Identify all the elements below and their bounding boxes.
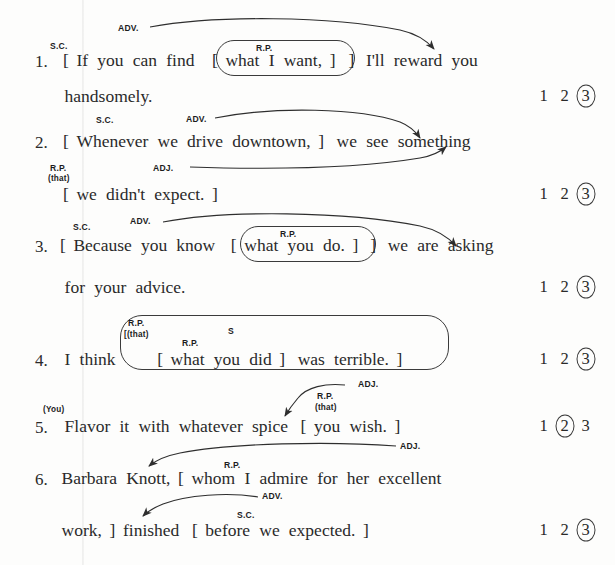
token: find: [162, 52, 199, 70]
token: [: [60, 133, 72, 151]
token: think: [75, 351, 120, 369]
token: handsomely.: [60, 88, 157, 106]
rating-option-2-selected[interactable]: 2: [554, 416, 575, 436]
token: see: [362, 133, 394, 151]
rating-option-1[interactable]: 1: [533, 416, 554, 436]
token: terrible.: [329, 351, 393, 369]
rating-option-1[interactable]: 1: [533, 349, 554, 369]
token: I: [264, 52, 279, 70]
token: what: [166, 351, 209, 369]
rating-option-3-selected[interactable]: 3: [575, 520, 596, 540]
rating-item1[interactable]: 1 2 3: [533, 86, 596, 106]
rating-option-3-selected[interactable]: 3: [575, 349, 596, 369]
rating-item4[interactable]: 1 2 3: [533, 349, 596, 369]
rating-option-1[interactable]: 1: [533, 520, 554, 540]
item-number-4: 4.: [35, 351, 48, 371]
tag-item6-adv: ADV.: [262, 491, 283, 501]
item-number-5: 5.: [35, 418, 48, 438]
token: downtown,: [228, 133, 315, 151]
item-number-2: 2.: [35, 133, 48, 153]
token: it: [115, 418, 134, 436]
rating-option-3-selected[interactable]: 3: [575, 86, 596, 106]
token: before: [201, 522, 255, 540]
token: ]: [394, 351, 406, 369]
token: spice: [247, 418, 292, 436]
rating-option-3-selected[interactable]: 3: [575, 277, 596, 297]
token: for: [60, 279, 90, 297]
item-number-6: 6.: [35, 470, 48, 490]
rating-option-1[interactable]: 1: [533, 277, 554, 297]
token: Because: [69, 237, 137, 255]
rating-option-3-selected[interactable]: 3: [575, 184, 596, 204]
item6-line1: BarbaraKnott,[whomIadmireforherexcellent: [57, 470, 446, 488]
rating-option-1[interactable]: 1: [533, 184, 554, 204]
rating-item6[interactable]: 1 2 3: [533, 520, 596, 540]
token: expected.: [284, 522, 360, 540]
tag-item5-that: (that): [315, 403, 337, 412]
token: didn't: [101, 186, 149, 204]
item-number-3: 3.: [35, 237, 48, 257]
rating-item2[interactable]: 1 2 3: [533, 184, 596, 204]
token: we: [255, 522, 285, 540]
arrow-item6-adj: [149, 443, 396, 466]
rating-option-2[interactable]: 2: [554, 184, 575, 204]
tag-item3-sc: S.C.: [73, 222, 91, 232]
token: want,: [279, 52, 327, 70]
token: [: [60, 52, 72, 70]
token: expect.: [150, 186, 209, 204]
token: ]: [392, 418, 404, 436]
rating-option-2[interactable]: 2: [554, 520, 575, 540]
token: [: [189, 522, 201, 540]
tag-item5-adj: ADJ.: [358, 379, 378, 389]
token: advice.: [131, 279, 190, 297]
token: what: [240, 237, 283, 255]
token: you: [283, 237, 318, 255]
token: Whenever: [72, 133, 153, 151]
tag-item3-adv: ADV.: [130, 216, 151, 226]
token: her: [342, 470, 374, 488]
token: can: [128, 52, 161, 70]
token: excellent: [374, 470, 446, 488]
item5-line1: Flavoritwithwhateverspice[youwish.]: [60, 418, 403, 436]
token: whatever: [174, 418, 247, 436]
token: we: [72, 186, 102, 204]
token: I'll: [361, 52, 389, 70]
tag-item4-subject: S: [228, 326, 234, 336]
token: finished: [118, 522, 184, 540]
item4-line1: Ithink[whatyoudid]wasterrible.]: [60, 351, 405, 369]
token: drive: [183, 133, 228, 151]
tag-item1-adv: ADV.: [118, 23, 139, 33]
rating-item3[interactable]: 1 2 3: [533, 277, 596, 297]
token: asking: [443, 237, 498, 255]
item1-line2: handsomely.: [60, 88, 157, 106]
token: ]: [360, 522, 372, 540]
token: If: [72, 52, 93, 70]
rating-option-1[interactable]: 1: [533, 86, 554, 106]
token: your: [90, 279, 131, 297]
token: whom: [187, 470, 240, 488]
token: you: [447, 52, 482, 70]
tag-item2-adj: ADJ.: [153, 163, 173, 173]
tag-item4-that: [(that): [124, 330, 149, 339]
token: know: [172, 237, 220, 255]
token: ]: [276, 351, 288, 369]
tag-item5-rp: R.P.: [317, 391, 333, 401]
token: you: [136, 237, 171, 255]
token: did: [245, 351, 277, 369]
item2-line1: [Wheneverwedrivedowntown,]weseesomething: [60, 133, 475, 151]
rating-option-2[interactable]: 2: [554, 86, 575, 106]
token: we: [383, 237, 413, 255]
token: ]: [349, 237, 361, 255]
token: [: [228, 237, 240, 255]
rating-option-2[interactable]: 2: [554, 349, 575, 369]
rating-option-3[interactable]: 3: [575, 416, 596, 436]
tag-item2-adv: ADV.: [186, 114, 207, 124]
token: I: [240, 470, 255, 488]
tag-item6-sc: S.C.: [237, 510, 255, 520]
tag-item2-sc: S.C.: [96, 115, 114, 125]
rating-option-2[interactable]: 2: [554, 277, 575, 297]
tag-item6-adj: ADJ.: [400, 441, 420, 451]
token: admire: [255, 470, 313, 488]
token: [: [298, 418, 310, 436]
rating-item5[interactable]: 1 2 3: [533, 416, 596, 436]
